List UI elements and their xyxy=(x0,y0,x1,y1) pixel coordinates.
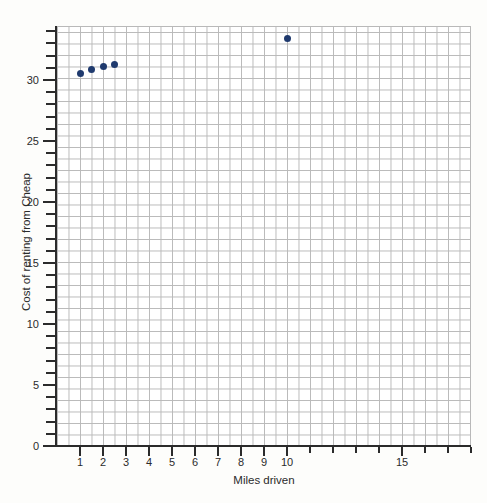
x-tick xyxy=(470,447,472,453)
x-tick xyxy=(286,447,288,456)
y-tick-label: 5 xyxy=(0,380,39,391)
x-tick xyxy=(263,447,265,456)
y-tick xyxy=(46,164,55,166)
x-tick-label: 10 xyxy=(272,457,302,468)
x-tick xyxy=(447,447,449,453)
y-tick xyxy=(46,177,55,179)
y-tick xyxy=(46,213,55,215)
y-tick xyxy=(46,396,55,398)
y-tick xyxy=(46,152,55,154)
y-tick xyxy=(46,189,55,191)
y-axis-line xyxy=(55,26,57,447)
x-tick xyxy=(309,447,311,453)
x-tick xyxy=(424,447,426,453)
y-axis-title: Cost of renting from Cheap xyxy=(20,132,32,352)
y-tick xyxy=(43,201,55,203)
x-tick xyxy=(148,447,150,456)
y-tick xyxy=(46,116,55,118)
x-tick xyxy=(355,447,357,453)
y-tick xyxy=(43,323,55,325)
y-tick xyxy=(46,274,55,276)
scatter-chart-figure: 051015202530 1234567891015 Cost of renti… xyxy=(0,0,487,503)
y-tick xyxy=(46,421,55,423)
x-tick-label: 15 xyxy=(387,457,417,468)
y-tick xyxy=(46,103,55,105)
x-tick xyxy=(378,447,380,453)
x-tick xyxy=(217,447,219,456)
y-tick-label: 0 xyxy=(0,441,39,452)
y-tick xyxy=(46,311,55,313)
y-tick xyxy=(46,360,55,362)
data-point xyxy=(284,35,291,42)
y-tick xyxy=(46,42,55,44)
y-tick xyxy=(46,347,55,349)
y-tick-label: 30 xyxy=(0,75,39,86)
y-tick xyxy=(46,250,55,252)
y-tick xyxy=(43,140,55,142)
x-tick xyxy=(194,447,196,456)
x-tick xyxy=(401,447,403,456)
x-tick xyxy=(240,447,242,456)
data-point xyxy=(88,66,95,73)
data-point xyxy=(77,70,84,77)
x-tick xyxy=(171,447,173,456)
x-tick xyxy=(79,447,81,456)
x-tick xyxy=(102,447,104,456)
y-tick xyxy=(46,286,55,288)
y-tick xyxy=(46,91,55,93)
y-tick xyxy=(43,79,55,81)
y-tick xyxy=(43,384,55,386)
y-tick xyxy=(46,225,55,227)
data-point xyxy=(100,63,107,70)
y-tick xyxy=(46,433,55,435)
y-tick xyxy=(46,408,55,410)
y-tick xyxy=(46,372,55,374)
y-tick xyxy=(46,299,55,301)
y-tick xyxy=(46,238,55,240)
y-tick xyxy=(46,30,55,32)
x-tick xyxy=(332,447,334,453)
plot-area-grid xyxy=(57,26,471,446)
x-tick xyxy=(125,447,127,456)
y-tick xyxy=(46,335,55,337)
y-tick xyxy=(46,67,55,69)
y-tick xyxy=(43,445,55,447)
data-point xyxy=(111,61,118,68)
y-tick xyxy=(43,262,55,264)
y-tick xyxy=(46,128,55,130)
x-axis-title: Miles driven xyxy=(57,474,471,486)
y-tick xyxy=(46,55,55,57)
